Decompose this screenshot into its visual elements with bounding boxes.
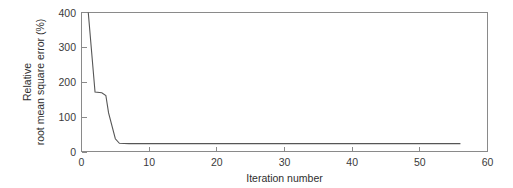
x-tick-label-10: 10	[143, 156, 155, 168]
relative-rmse-line-chart: 0 10 20 30 40 50 60 0 100 200 300 400 Re…	[0, 0, 513, 188]
chart-figure: 0 10 20 30 40 50 60 0 100 200 300 400 Re…	[0, 0, 513, 188]
x-tick-label-60: 60	[482, 156, 494, 168]
plot-area-background	[81, 12, 488, 152]
y-axis-title-line1: Relative	[21, 63, 33, 101]
y-tick-labels: 0 100 200 300 400	[58, 7, 76, 158]
x-tick-label-30: 30	[279, 156, 291, 168]
y-tick-label-300: 300	[58, 41, 76, 53]
x-tick-label-50: 50	[414, 156, 426, 168]
x-tick-label-0: 0	[79, 156, 85, 168]
y-tick-label-200: 200	[58, 76, 76, 88]
y-tick-label-0: 0	[70, 146, 76, 158]
y-tick-label-100: 100	[58, 111, 76, 123]
y-axis-title-line2: root mean square error (%)	[34, 19, 46, 146]
y-axis-title: Relative root mean square error (%)	[21, 19, 46, 146]
x-tick-label-40: 40	[346, 156, 358, 168]
x-tick-labels: 0 10 20 30 40 50 60	[79, 156, 494, 168]
x-axis-title: Iteration number	[246, 172, 323, 184]
x-tick-label-20: 20	[211, 156, 223, 168]
y-tick-label-400: 400	[58, 7, 76, 19]
